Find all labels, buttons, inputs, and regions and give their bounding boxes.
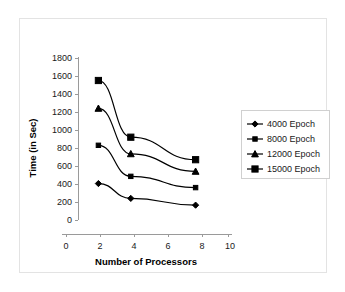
y-axis-tick-labels: 1800 1600 1400 1200 1000 800 600 400 200…: [52, 53, 72, 225]
data-point-marker: [128, 195, 134, 201]
series-line: [98, 145, 195, 187]
x-tick-label: 10: [225, 241, 235, 251]
x-tick-label: 2: [97, 241, 102, 251]
data-point-marker: [193, 185, 197, 189]
y-tick-label: 600: [57, 161, 72, 171]
data-point-marker: [128, 134, 134, 140]
chart-legend: 4000 Epoch8000 Epoch12000 Epoch15000 Epo…: [241, 110, 329, 178]
y-axis: [75, 57, 78, 220]
x-axis-tick-labels: 0 2 4 6 8 10: [63, 241, 235, 251]
data-series: [96, 143, 198, 190]
x-tick-label: 4: [131, 241, 136, 251]
y-tick-label: 400: [57, 179, 72, 189]
data-point-marker: [95, 77, 101, 83]
y-tick-label: 1200: [52, 107, 72, 117]
legend-label: 12000 Epoch: [267, 149, 320, 159]
data-series: [95, 180, 198, 208]
data-point-marker: [193, 157, 199, 163]
data-point-marker: [193, 202, 199, 208]
x-tick-label: 0: [63, 241, 68, 251]
x-axis-title: Number of Processors: [95, 256, 197, 267]
y-tick-label: 1000: [52, 125, 72, 135]
y-tick-label: 200: [57, 197, 72, 207]
y-tick-label: 800: [57, 143, 72, 153]
legend-marker-icon: [253, 137, 257, 141]
data-point-marker: [96, 143, 100, 147]
x-axis: [62, 234, 232, 237]
x-tick-label: 8: [199, 241, 204, 251]
line-chart: 1800 1600 1400 1200 1000 800 600 400 200…: [0, 0, 345, 292]
y-tick-label: 1600: [52, 71, 72, 81]
chart-figure: 1800 1600 1400 1200 1000 800 600 400 200…: [0, 0, 345, 292]
y-axis-title: Time (in Sec): [27, 119, 38, 178]
legend-label: 15000 Epoch: [267, 164, 320, 174]
y-tick-label: 0: [67, 215, 72, 225]
legend-label: 8000 Epoch: [267, 134, 315, 144]
data-point-marker: [95, 180, 101, 186]
series-line: [98, 81, 195, 160]
legend-marker-icon: [252, 166, 258, 172]
x-tick-label: 6: [165, 241, 170, 251]
y-tick-label: 1400: [52, 89, 72, 99]
data-point-marker: [129, 174, 133, 178]
legend-label: 4000 Epoch: [267, 119, 315, 129]
data-series-layer: [95, 77, 199, 208]
y-tick-label: 1800: [52, 53, 72, 63]
